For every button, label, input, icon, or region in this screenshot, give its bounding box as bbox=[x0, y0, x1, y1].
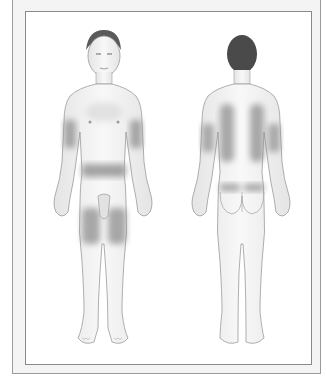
site-upper-arm-left bbox=[64, 120, 76, 148]
back-body-view bbox=[176, 12, 306, 362]
site-upper-back-left bbox=[220, 104, 234, 162]
site-thigh-right bbox=[108, 208, 126, 244]
site-upper-back-right bbox=[250, 104, 264, 162]
back-body-figure bbox=[176, 12, 306, 362]
front-body-view bbox=[38, 12, 168, 362]
illustration-panel bbox=[25, 11, 312, 365]
site-upper-arm-right bbox=[268, 124, 280, 152]
head bbox=[88, 36, 120, 76]
site-lower-back-right bbox=[244, 184, 264, 191]
site-lower-back-left bbox=[220, 184, 240, 191]
site-thigh-left bbox=[82, 208, 100, 244]
back-body-outline bbox=[192, 84, 290, 343]
site-upper-arm-left bbox=[202, 124, 214, 152]
site-abdomen bbox=[82, 164, 126, 177]
front-body-figure bbox=[38, 12, 168, 362]
head-hair bbox=[227, 35, 257, 73]
site-upper-arm-right bbox=[130, 120, 142, 148]
